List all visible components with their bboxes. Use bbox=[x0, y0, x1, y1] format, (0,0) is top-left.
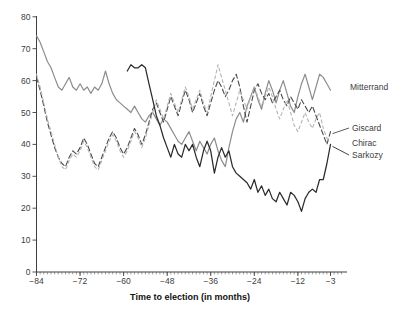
y-tick-label: 10 bbox=[21, 235, 31, 245]
x-tick-label: −36 bbox=[204, 276, 219, 286]
y-tick-label: 20 bbox=[21, 203, 31, 213]
series-line-chirac bbox=[37, 65, 331, 170]
series-label-sarkozy: Sarkozy bbox=[352, 150, 383, 160]
chart-series-labels: MitterrandGiscardChiracSarkozy bbox=[333, 82, 389, 160]
x-tick-label: −84 bbox=[29, 276, 44, 286]
chart-series bbox=[37, 36, 331, 212]
series-label-mitterrand: Mitterrand bbox=[350, 82, 389, 92]
x-tick-label: −72 bbox=[73, 276, 88, 286]
series-label-connector-giscard bbox=[333, 128, 349, 134]
x-tick-label: −12 bbox=[291, 276, 306, 286]
y-tick-label: 70 bbox=[21, 44, 31, 54]
y-tick-label: 60 bbox=[21, 76, 31, 86]
series-line-sarkozy bbox=[127, 65, 330, 212]
series-label-giscard: Giscard bbox=[352, 123, 382, 133]
x-tick-label: −3 bbox=[326, 276, 336, 286]
popularity-chart-figure: 01020304050607080−84−72−60−48−36−24−12−3… bbox=[0, 0, 410, 325]
x-axis-title: Time to election (in months) bbox=[130, 292, 250, 302]
x-tick-label: −60 bbox=[116, 276, 131, 286]
chart-svg: 01020304050607080−84−72−60−48−36−24−12−3… bbox=[0, 0, 410, 325]
y-tick-label: 50 bbox=[21, 108, 31, 118]
x-tick-label: −24 bbox=[247, 276, 262, 286]
y-tick-label: 40 bbox=[21, 139, 31, 149]
y-tick-label: 80 bbox=[21, 12, 31, 22]
x-tick-label: −48 bbox=[160, 276, 175, 286]
series-label-connector-sarkozy bbox=[333, 146, 349, 155]
series-label-chirac: Chirac bbox=[352, 138, 377, 148]
y-tick-label: 30 bbox=[21, 171, 31, 181]
